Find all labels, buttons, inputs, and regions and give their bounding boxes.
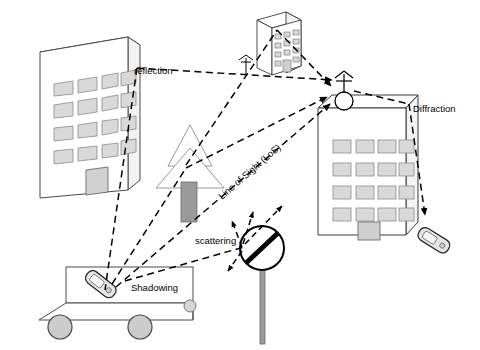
label-line-of-sight: Line of Sight (LoS) xyxy=(216,142,283,202)
label-scattering: scattering xyxy=(195,235,236,246)
propagation-diagram: reflection Diffraction scattering Shadow… xyxy=(0,0,480,350)
tree xyxy=(156,125,224,222)
top-building-door xyxy=(283,60,291,72)
right-building xyxy=(318,95,418,240)
top-building xyxy=(257,12,301,75)
antenna-base-circle xyxy=(335,92,353,110)
label-reflection: reflection xyxy=(134,65,173,76)
mobile-phone xyxy=(416,225,452,255)
street-sign-scatterer xyxy=(240,226,284,344)
label-shadowing: Shadowing xyxy=(131,282,178,293)
truck xyxy=(39,267,196,339)
right-building-door xyxy=(358,222,380,240)
left-building-door xyxy=(86,167,108,195)
label-diffraction: Diffraction xyxy=(413,103,456,114)
left-building xyxy=(40,37,140,198)
small-antenna xyxy=(239,55,253,74)
tree-trunk xyxy=(181,182,197,222)
diagram-canvas: reflection Diffraction scattering Shadow… xyxy=(0,0,480,350)
base-station-antenna xyxy=(335,71,353,110)
truck-wheel xyxy=(128,315,152,339)
truck-wheel xyxy=(48,315,72,339)
